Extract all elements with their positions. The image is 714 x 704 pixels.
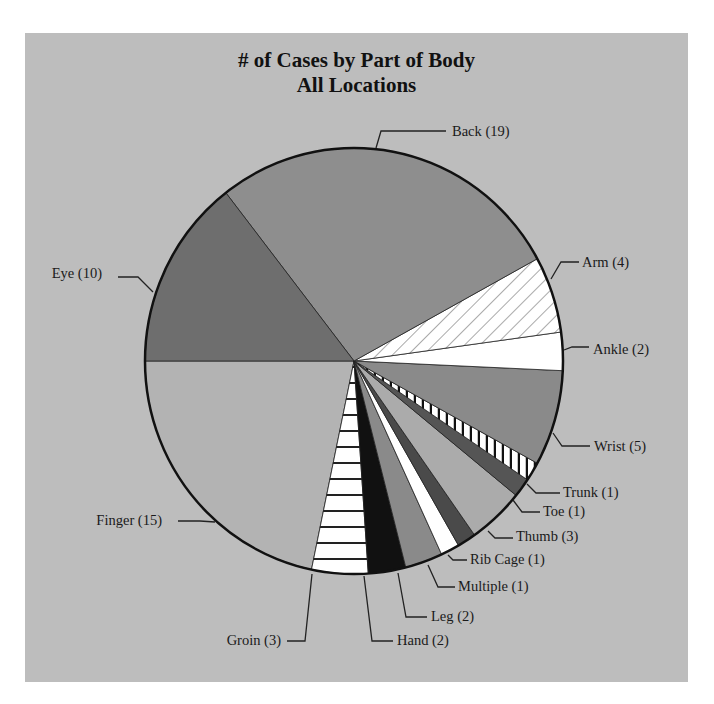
slice-label: Back (19) <box>452 123 510 140</box>
leader-line <box>488 531 513 538</box>
leader-line <box>178 521 215 522</box>
leader-line <box>553 433 590 446</box>
slice-label: Eye (10) <box>52 265 102 282</box>
leader-line <box>527 484 560 493</box>
slice-label: Finger (15) <box>96 512 162 529</box>
pie-chart: Back (19)Arm (4)Ankle (2)Wrist (5)Trunk … <box>0 0 714 704</box>
slice-label: Leg (2) <box>431 608 474 625</box>
leader-line <box>513 500 540 512</box>
slice-label: Thumb (3) <box>516 528 579 545</box>
slice-label: Trunk (1) <box>563 484 619 501</box>
slice-label: Arm (4) <box>582 254 629 271</box>
leader-line <box>551 262 579 279</box>
slice-label: Groin (3) <box>227 632 282 649</box>
slice-label: Hand (2) <box>397 632 449 649</box>
leader-line <box>376 131 446 148</box>
slice-label: Ankle (2) <box>593 341 649 358</box>
pie-slices <box>145 148 563 574</box>
slice-label: Multiple (1) <box>458 578 529 595</box>
leader-line <box>564 347 589 350</box>
leader-line <box>287 574 312 641</box>
slice-label: Wrist (5) <box>594 438 646 455</box>
leader-line <box>364 576 393 641</box>
leader-line <box>448 555 467 560</box>
slice-label: Toe (1) <box>543 503 585 520</box>
leader-line <box>428 565 455 587</box>
leader-line <box>398 573 427 617</box>
leader-line <box>118 277 153 292</box>
slice-label: Rib Cage (1) <box>470 551 545 568</box>
